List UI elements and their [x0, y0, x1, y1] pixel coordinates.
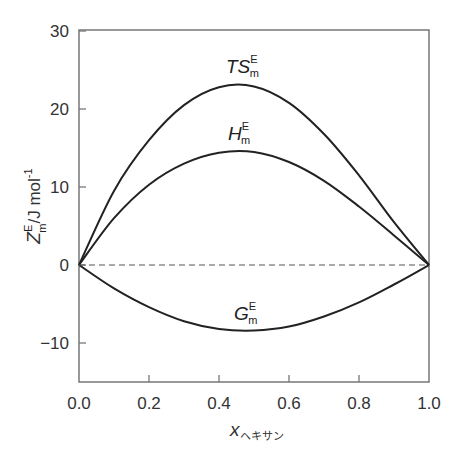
x-tick-label: 0.2: [137, 394, 161, 413]
y-tick-label: 0: [60, 256, 69, 275]
curve-label-ts: TSEm: [226, 53, 259, 79]
excess-properties-chart: −100102030 0.00.20.40.60.81.0 ZEm/J mol-…: [0, 0, 460, 452]
x-tick-label: 0.8: [347, 394, 371, 413]
curve-label-g: GEm: [234, 300, 257, 326]
x-axis-ticks: 0.00.20.40.60.81.0: [67, 375, 441, 413]
plot-frame: [79, 30, 429, 382]
curves: [79, 85, 429, 331]
x-tick-label: 0.0: [67, 394, 91, 413]
x-tick-label: 1.0: [417, 394, 441, 413]
y-tick-label: 20: [50, 100, 69, 119]
x-tick-label: 0.6: [277, 394, 301, 413]
ts-curve: [79, 85, 429, 265]
y-tick-label: 10: [50, 178, 69, 197]
svg-text:TSEm: TSEm: [226, 53, 259, 79]
h-curve: [79, 151, 429, 265]
svg-text:GEm: GEm: [234, 300, 257, 326]
svg-text:HEm: HEm: [228, 120, 250, 146]
y-tick-label: −10: [40, 334, 69, 353]
y-axis-label: ZEm/J mol-1: [22, 168, 48, 244]
x-axis-label: xヘキサン: [229, 419, 284, 442]
curve-label-h: HEm: [228, 120, 250, 146]
x-tick-label: 0.4: [207, 394, 231, 413]
svg-text:ZEm/J mol-1: ZEm/J mol-1: [22, 168, 48, 244]
svg-text:xヘキサン: xヘキサン: [229, 419, 284, 442]
y-tick-label: 30: [50, 22, 69, 41]
